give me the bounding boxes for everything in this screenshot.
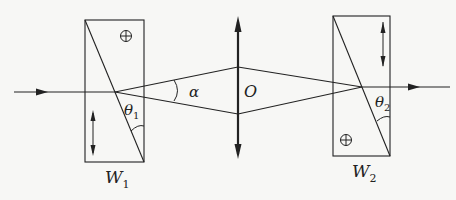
vertical-polarization-icon (91, 110, 96, 156)
lens-o: O (235, 16, 258, 159)
lens-bottom-arrow-icon (235, 144, 242, 159)
theta1-label: θ1 (124, 101, 139, 121)
alpha-label: α (189, 83, 199, 101)
theta2-label: θ2 (375, 93, 390, 113)
output-ray (362, 84, 450, 91)
alpha-arc (174, 80, 178, 101)
prism-w1: θ1 W1 (85, 20, 144, 191)
incident-arrow-icon (36, 89, 48, 96)
w2-label: W2 (352, 161, 376, 185)
prism-w2: θ2 W2 (333, 16, 390, 185)
w1-label: W1 (105, 167, 129, 191)
optics-diagram: θ1 W1 α O θ2 W2 (0, 0, 456, 200)
incident-ray (14, 89, 115, 96)
theta1-arc (131, 126, 144, 131)
split-beams: α (115, 67, 238, 114)
into-page-icon (121, 31, 132, 42)
lens-label: O (244, 82, 257, 101)
output-arrow-icon (408, 84, 420, 91)
lens-top-arrow-icon (235, 16, 242, 32)
theta2-arc (377, 117, 390, 122)
vertical-polarization-icon (381, 22, 386, 67)
into-page-icon (341, 135, 352, 146)
